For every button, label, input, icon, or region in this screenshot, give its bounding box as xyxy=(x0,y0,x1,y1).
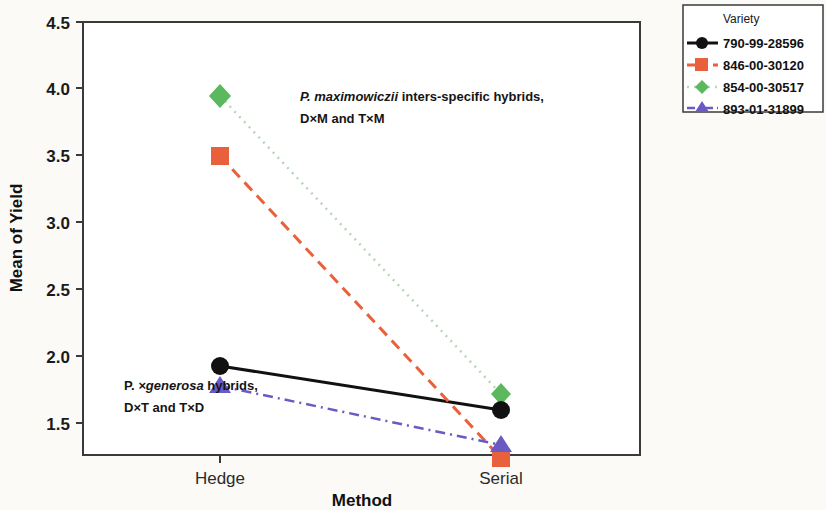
annotation-generosa-prefix: P. xyxy=(124,378,138,393)
data-point-846-hedge xyxy=(211,147,229,165)
y-tick-label-4-5: 4.5 xyxy=(46,14,70,33)
legend-label-846: 846-00-30120 xyxy=(723,58,804,73)
legend-title: Variety xyxy=(723,12,759,26)
annotation-generosa-italic: ×generosa xyxy=(138,378,203,393)
annotation-maximowiczii-italic: P. maximowiczii xyxy=(300,89,398,104)
legend-marker-circle-icon xyxy=(696,37,708,49)
legend-item-846-00-30120[interactable]: 846-00-30120 xyxy=(687,58,804,73)
x-tick-label-hedge: Hedge xyxy=(195,469,245,488)
legend-label-854: 854-00-30517 xyxy=(723,80,804,95)
y-tick-label-2-5: 2.5 xyxy=(46,281,70,300)
annotation-maximowiczii-rest: inters-specific hybrids, xyxy=(398,89,544,104)
data-point-790-serial xyxy=(492,401,510,419)
y-tick-label-4-0: 4.0 xyxy=(46,80,70,99)
x-axis-title: Method xyxy=(332,491,392,510)
y-tick-label-3-0: 3.0 xyxy=(46,214,70,233)
legend-label-893: 893-01-31899 xyxy=(723,102,804,117)
x-axis-ticks xyxy=(220,455,501,463)
y-tick-label-2-0: 2.0 xyxy=(46,348,70,367)
svg-text:P. maximowiczii inters-specifi: P. maximowiczii inters-specific hybrids, xyxy=(300,89,544,104)
annotation-generosa-rest: hybrids, xyxy=(204,378,258,393)
interaction-plot: 4.5 4.0 3.5 3.0 2.5 2.0 1.5 Mean of Yiel… xyxy=(0,0,826,510)
legend-marker-square-icon xyxy=(695,58,708,71)
annotation-maximowiczii-line2: D×M and T×M xyxy=(300,111,385,126)
data-point-790-hedge xyxy=(211,357,229,375)
annotation-generosa-line2: D×T and T×D xyxy=(124,400,204,415)
svg-text:P. ×generosa hybrids,: P. ×generosa hybrids, xyxy=(124,378,258,393)
x-tick-label-serial: Serial xyxy=(479,469,522,488)
legend: Variety 790-99-28596 846-00-30120 854-00… xyxy=(683,5,823,117)
legend-label-790: 790-99-28596 xyxy=(723,36,804,51)
y-axis-title: Mean of Yield xyxy=(7,184,26,293)
y-tick-label-3-5: 3.5 xyxy=(46,147,70,166)
y-axis-ticks xyxy=(76,22,83,423)
chart-canvas: 4.5 4.0 3.5 3.0 2.5 2.0 1.5 Mean of Yiel… xyxy=(0,0,826,510)
y-tick-label-1-5: 1.5 xyxy=(46,415,70,434)
